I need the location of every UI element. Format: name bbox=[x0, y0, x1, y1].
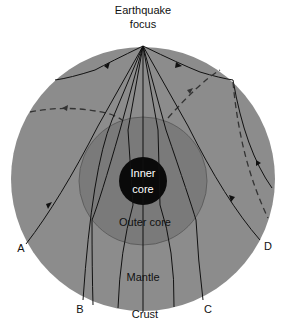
station-c-label: C bbox=[204, 303, 212, 315]
station-b-label: B bbox=[76, 303, 83, 315]
earth-cross-section-diagram: Earthquake focus Inner core Outer core M… bbox=[0, 0, 285, 326]
inner-core-label-line2: core bbox=[132, 183, 153, 195]
mantle-label: Mantle bbox=[126, 271, 159, 283]
inner-core-label-line1: Inner bbox=[130, 167, 155, 179]
station-a-label: A bbox=[17, 242, 25, 254]
focus-label-line1: Earthquake bbox=[115, 4, 171, 16]
station-d-label: D bbox=[264, 240, 272, 252]
focus-label-line2: focus bbox=[130, 18, 157, 30]
outer-core-label: Outer core bbox=[119, 216, 171, 228]
crust-label: Crust bbox=[132, 308, 158, 320]
